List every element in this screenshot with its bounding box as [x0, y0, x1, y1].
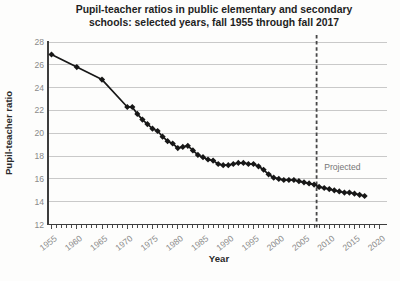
pupil-teacher-ratio-chart: Pupil-teacher ratios in public elementar…: [0, 0, 400, 281]
series-line: [52, 55, 365, 197]
y-tick-label: 16: [34, 174, 44, 184]
data-point: [336, 188, 342, 194]
y-tick-label: 14: [34, 197, 44, 207]
x-tick-label: 2015: [341, 233, 362, 253]
x-tick-label: 1960: [63, 233, 84, 253]
x-tick-label: 2010: [315, 233, 336, 253]
data-point: [180, 144, 186, 150]
y-tick-label: 22: [34, 105, 44, 115]
data-point: [48, 51, 54, 57]
y-tick-label: 28: [34, 37, 44, 47]
x-tick-label: 1985: [189, 233, 210, 253]
data-point: [346, 190, 352, 196]
x-tick-label: 1965: [88, 233, 109, 253]
y-tick-label: 20: [34, 128, 44, 138]
x-axis-ticks: [52, 225, 380, 230]
x-tick-label: 1975: [139, 233, 160, 253]
data-point: [230, 161, 236, 167]
x-tick-label: 2000: [265, 233, 286, 253]
data-point: [362, 193, 368, 199]
chart-title-line-1: Pupil-teacher ratios in public elementar…: [76, 4, 353, 15]
x-axis-tick-labels: 1955196019651970197519801985199019952000…: [38, 233, 388, 253]
data-point: [321, 185, 327, 191]
chart-page: Pupil-teacher ratios in public elementar…: [0, 0, 400, 281]
data-point: [240, 160, 246, 166]
y-tick-label: 24: [34, 83, 44, 93]
data-point: [276, 176, 282, 182]
data-point: [331, 187, 337, 193]
data-point: [225, 162, 231, 168]
y-tick-label: 18: [34, 151, 44, 161]
x-tick-label: 2020: [366, 233, 387, 253]
data-series: [48, 51, 367, 199]
data-point: [356, 192, 362, 198]
data-point: [291, 177, 297, 183]
data-point: [326, 186, 332, 192]
data-point: [351, 191, 357, 197]
x-tick-label: 1955: [38, 233, 59, 253]
data-point: [301, 179, 307, 185]
chart-title-line-2: schools: selected years, fall 1955 throu…: [89, 17, 339, 28]
y-axis-tick-labels: 121416182022242628: [34, 37, 44, 230]
x-tick-label: 1995: [240, 233, 261, 253]
y-axis-title: Pupil-teacher ratio: [3, 91, 14, 175]
x-tick-label: 1980: [164, 233, 185, 253]
y-tick-label: 26: [34, 60, 44, 70]
x-tick-label: 1970: [113, 233, 134, 253]
axes: [48, 41, 387, 225]
y-tick-label: 12: [34, 220, 44, 230]
x-axis-title: Year: [209, 253, 230, 264]
x-tick-label: 2005: [290, 233, 311, 253]
projected-annotation: Projected: [324, 162, 361, 172]
x-tick-label: 1990: [214, 233, 235, 253]
data-point: [306, 180, 312, 186]
gridlines: [48, 42, 387, 202]
